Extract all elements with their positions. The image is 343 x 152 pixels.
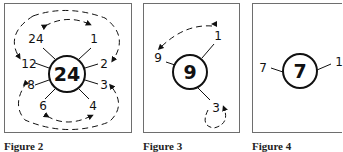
center-number: 24 [54,63,80,85]
pair-arrow-1-9 [160,26,212,48]
factor-star-24: 24 24 1 2 3 4 6 8 12 [5,4,133,134]
center-number: 9 [183,61,196,83]
factor-label: 24 [28,32,43,46]
factor-label: 1 [214,29,222,43]
pair-arrow-1-24 [45,19,89,26]
factor-label: 6 [39,99,47,113]
caption-figure-1: Figure 2 [4,140,43,152]
factor-label: 2 [100,57,108,71]
factor-label: 1 [90,32,98,46]
factor-diagram-7: 7 7 1 [252,3,342,133]
factor-label: 4 [89,99,97,113]
factor-label: 12 [21,57,36,71]
factor-label: 3 [212,101,220,115]
caption-figure-3: Figure 4 [252,140,291,152]
center-number: 7 [293,60,306,82]
factor-label: 1 [335,55,343,69]
caption-figure-2: Figure 3 [143,140,182,152]
pair-arrow-2-12 [33,10,119,60]
pair-arrow-4-6 [47,116,91,122]
factor-label: 8 [27,78,35,92]
factor-label: 3 [100,78,108,92]
factor-diagram-24: 24 24 1 2 3 4 6 8 12 [4,3,132,133]
factor-label: 7 [259,61,267,75]
factor-label: 9 [154,51,162,65]
factor-star-9: 9 1 9 3 [144,4,241,134]
factor-star-7: 7 7 1 [253,4,343,134]
factor-diagram-9: 9 1 9 3 [143,3,240,133]
